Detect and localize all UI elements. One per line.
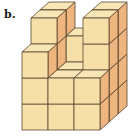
cube-front-face: [22, 78, 48, 104]
cube-front-face: [83, 44, 109, 70]
cube-front-face: [48, 104, 74, 130]
cube-front-face: [22, 104, 48, 130]
cube-front-face: [31, 18, 57, 44]
cube-front-face: [22, 52, 48, 78]
cube-front-face: [83, 18, 109, 44]
cube-front-face: [48, 78, 74, 104]
cube-front-face: [74, 78, 100, 104]
cube-front-face: [74, 104, 100, 130]
cube-stack-diagram: [0, 0, 132, 140]
